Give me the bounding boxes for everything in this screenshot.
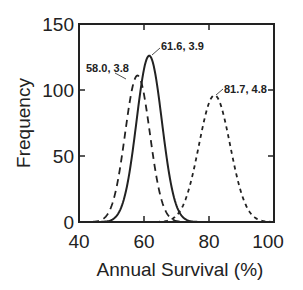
x-tick-label: 100: [252, 231, 284, 252]
plot-frame: [79, 24, 274, 222]
series-dotted-line: [92, 95, 271, 222]
y-axis-label: Frequency: [13, 78, 34, 168]
annotation-solid: 61.6, 3.9: [161, 40, 204, 52]
y-tick-label: 100: [42, 80, 74, 101]
y-tick-label: 50: [53, 146, 74, 167]
x-tick-label: 60: [133, 231, 154, 252]
annot-leader: [216, 89, 223, 95]
y-ticks: [79, 90, 274, 156]
y-tick-label: 150: [42, 14, 74, 35]
x-axis-label: Annual Survival (%): [97, 259, 264, 280]
x-tick-label: 80: [198, 231, 219, 252]
annot-leader: [152, 48, 160, 55]
annotation-dashed: 58.0, 3.8: [86, 62, 129, 74]
x-tick-label: 40: [68, 231, 89, 252]
y-tick-label: 0: [63, 212, 74, 233]
annotation-dotted: 81.7, 4.8: [224, 83, 267, 95]
series-solid-line: [92, 56, 271, 222]
chart: 40 60 80 100 0 50 100 150 Annual Surviva…: [0, 0, 303, 290]
